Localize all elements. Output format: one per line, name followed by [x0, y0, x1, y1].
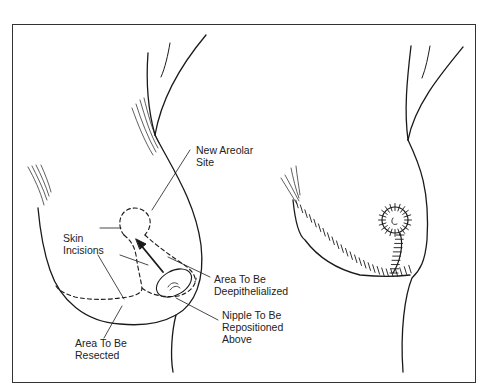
- label-skin-incisions: Skin Incisions: [63, 232, 104, 256]
- label-new-areolar-site: New Areolar Site: [196, 144, 253, 168]
- left-breast-drawing: [28, 35, 218, 372]
- right-breast-drawing: [281, 46, 463, 372]
- label-area-deepithelialized: Area To Be Deepithelialized: [214, 273, 288, 297]
- reposition-arrow: [140, 244, 163, 272]
- label-nipple-repositioned: Nipple To Be Repositioned Above: [222, 309, 283, 345]
- label-area-resected: Area To Be Resected: [75, 337, 127, 361]
- suture-marks: [296, 200, 412, 276]
